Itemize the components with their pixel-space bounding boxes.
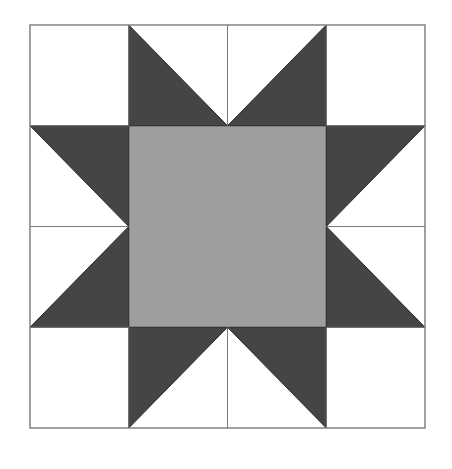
quilt-block-canvas: Sawtooth Star (0, 0, 452, 469)
center-square (129, 126, 327, 328)
quilt-block-figure (0, 0, 452, 469)
